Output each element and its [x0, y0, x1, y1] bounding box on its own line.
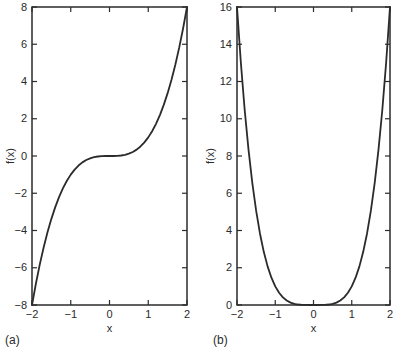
curve: [32, 7, 187, 305]
x-tick-label: 0: [106, 308, 112, 320]
y-tick-label: 0: [226, 299, 232, 311]
x-tick-label: 1: [145, 308, 151, 320]
x-axis-label-b: x: [237, 322, 390, 334]
y-tick-label: −6: [14, 261, 27, 273]
y-tick-label: 6: [226, 187, 232, 199]
y-axis-label-a: f(x): [3, 136, 17, 176]
y-tick-label: −4: [14, 224, 27, 236]
y-tick-label: 16: [220, 1, 232, 13]
plot-frame: [237, 7, 390, 305]
x-tick-label: 1: [349, 308, 355, 320]
x-tick-label: −1: [269, 308, 282, 320]
y-tick-label: 12: [220, 75, 232, 87]
panel-label-b: (b): [213, 333, 228, 347]
y-tick-label: 0: [21, 150, 27, 162]
x-axis-label-a: x: [32, 322, 187, 334]
x-tick-label: −2: [26, 308, 39, 320]
y-tick-label: 4: [226, 224, 232, 236]
x-tick-label: −1: [64, 308, 77, 320]
x-tick-label: 2: [184, 308, 190, 320]
figure-canvas: −2−1012−8−6−4−202468 f(x) x (a) −2−10120…: [0, 0, 400, 360]
y-tick-label: 6: [21, 38, 27, 50]
x-tick-label: 2: [387, 308, 393, 320]
y-tick-label: 4: [21, 75, 27, 87]
x-tick-label: −2: [231, 308, 244, 320]
y-tick-label: −8: [14, 299, 27, 311]
panel-b: −2−10120246810121416 f(x) x (b): [200, 0, 400, 360]
x-tick-label: 0: [310, 308, 316, 320]
panel-label-a: (a): [5, 333, 20, 347]
y-tick-label: 14: [220, 38, 232, 50]
y-tick-label: 8: [226, 150, 232, 162]
panel-a: −2−1012−8−6−4−202468 f(x) x (a): [0, 0, 200, 360]
y-tick-label: 2: [226, 261, 232, 273]
y-tick-label: 2: [21, 112, 27, 124]
plot-a-canvas: −2−1012−8−6−4−202468: [0, 0, 200, 360]
curve: [237, 7, 390, 305]
plot-b-canvas: −2−10120246810121416: [200, 0, 400, 360]
y-axis-label-b: f(x): [203, 136, 217, 176]
y-tick-label: 10: [220, 112, 232, 124]
y-tick-label: −2: [14, 187, 27, 199]
y-tick-label: 8: [21, 1, 27, 13]
